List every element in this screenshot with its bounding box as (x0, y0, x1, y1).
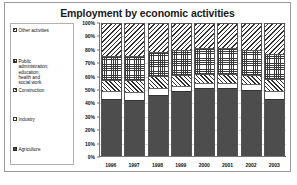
y-axis-tick-label: 0% (88, 154, 95, 160)
bar-segment (171, 50, 192, 75)
y-axis-tick-label: 30% (85, 114, 95, 120)
x-axis-tick-label: 1996 (100, 158, 121, 172)
x-axis-tick-label: 2003 (264, 158, 285, 172)
bar-column[interactable] (217, 23, 238, 156)
bar-segment (101, 91, 122, 99)
bar-segment (217, 48, 238, 73)
x-axis-tick-label: 2000 (194, 158, 215, 172)
legend-swatch-icon (13, 28, 17, 32)
bar-segment (148, 52, 169, 76)
y-axis-tick-label: 20% (85, 127, 95, 133)
y-axis-tick-label: 10% (85, 141, 95, 147)
x-axis-tick-label: 1997 (124, 158, 145, 172)
bar-column[interactable] (264, 23, 285, 156)
legend-item-label: Industry (19, 117, 76, 122)
bar-segment (264, 23, 285, 54)
bar-segment (101, 56, 122, 80)
bar-segment (194, 88, 215, 156)
bar-segment (124, 80, 145, 92)
bar-segment (241, 50, 262, 75)
bar-segment (264, 79, 285, 91)
bar-segment (264, 99, 285, 156)
bar-group (100, 23, 286, 156)
x-axis-tick-label: 1998 (147, 158, 168, 172)
bar-segment (194, 74, 215, 83)
legend-item-label: Agriculture (19, 147, 76, 152)
bar-segment (264, 54, 285, 79)
bar-segment (194, 23, 215, 48)
bar-segment (101, 80, 122, 91)
y-axis-tick-label: 90% (85, 33, 95, 39)
legend-swatch-icon (13, 59, 17, 63)
bar-segment (148, 76, 169, 88)
chart-container: Employment by economic activities Other … (4, 2, 291, 172)
bar-segment (148, 88, 169, 95)
y-axis-tick-label: 70% (85, 60, 95, 66)
bar-segment (171, 75, 192, 86)
bar-segment (217, 88, 238, 156)
plot-wrapper: 100%90%80%70%60%50%40%30%20%10%0% 199619… (77, 23, 286, 163)
bar-segment (194, 48, 215, 73)
legend-swatch-icon (13, 88, 17, 92)
bar-segment (124, 23, 145, 56)
plot-area (99, 23, 286, 157)
legend-swatch-icon (13, 117, 17, 121)
bar-segment (148, 23, 169, 52)
chart-title: Employment by economic activities (5, 7, 290, 19)
bar-segment (241, 90, 262, 157)
legend-item-label-cont: social work (13, 80, 75, 85)
bar-segment (101, 23, 122, 56)
y-axis-tick-label: 80% (85, 47, 95, 53)
x-axis-tick-label: 2001 (217, 158, 238, 172)
bar-segment (241, 75, 262, 84)
bar-column[interactable] (241, 23, 262, 156)
bar-segment (241, 23, 262, 50)
bar-segment (148, 95, 169, 156)
bar-column[interactable] (101, 23, 122, 156)
x-axis-tick-label: 2002 (240, 158, 261, 172)
bar-segment (124, 100, 145, 156)
legend-item-public-administration[interactable]: Publicadministration;education;health an… (13, 59, 75, 85)
bar-segment (124, 56, 145, 80)
y-axis: 100%90%80%70%60%50%40%30%20%10%0% (77, 23, 97, 157)
legend-item-label: Other activities (19, 28, 76, 33)
legend-item-label: Construction (19, 88, 76, 93)
bar-segment (264, 91, 285, 99)
bar-segment (171, 91, 192, 156)
bar-segment (101, 99, 122, 156)
legend-swatch-icon (13, 147, 17, 151)
x-axis: 19961997199819992000200120022003 (99, 158, 286, 172)
bar-segment (171, 23, 192, 50)
legend-item-agriculture[interactable]: Agriculture (13, 147, 75, 152)
bar-segment (217, 23, 238, 48)
y-axis-tick-label: 60% (85, 74, 95, 80)
bar-column[interactable] (171, 23, 192, 156)
bar-column[interactable] (194, 23, 215, 156)
x-axis-tick-label: 1999 (170, 158, 191, 172)
bar-column[interactable] (148, 23, 169, 156)
y-axis-tick-label: 50% (85, 87, 95, 93)
bar-column[interactable] (124, 23, 145, 156)
bar-segment (217, 74, 238, 83)
legend-item-industry[interactable]: Industry (13, 117, 75, 122)
y-axis-tick-label: 100% (82, 20, 95, 26)
chart-legend: Other activitiesPublicadministration;edu… (10, 23, 74, 165)
bar-segment (124, 92, 145, 100)
legend-item-other-activities[interactable]: Other activities (13, 28, 75, 33)
y-axis-tick-label: 40% (85, 100, 95, 106)
legend-item-construction[interactable]: Construction (13, 88, 75, 93)
